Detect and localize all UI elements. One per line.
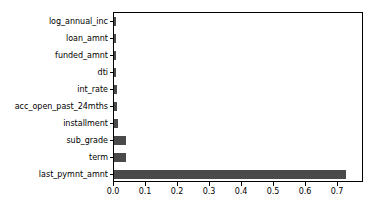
x-tick-mark (145, 182, 146, 186)
x-tick-label-0.2: 0.2 (165, 187, 189, 196)
bar-loan_amnt (114, 34, 362, 43)
bars-layer (114, 13, 362, 181)
y-tick-label-int_rate: int_rate (0, 84, 108, 93)
bar-fill (114, 119, 118, 128)
plot-area (113, 12, 363, 182)
x-tick-mark (337, 182, 338, 186)
figure-canvas: log_annual_incloan_amntfunded_amntdtiint… (0, 0, 383, 208)
y-tick-mark (110, 55, 114, 56)
x-tick-label-0.5: 0.5 (261, 187, 285, 196)
bar-fill (114, 170, 346, 179)
y-tick-label-loan_amnt: loan_amnt (0, 33, 108, 42)
y-tick-mark (110, 21, 114, 22)
y-tick-mark (110, 123, 114, 124)
y-tick-label-sub_grade: sub_grade (0, 135, 108, 144)
x-tick-mark (241, 182, 242, 186)
y-tick-mark (110, 174, 114, 175)
y-tick-label-installment: installment (0, 118, 108, 127)
bar-funded_amnt (114, 51, 362, 60)
x-tick-mark (177, 182, 178, 186)
y-tick-mark (110, 38, 114, 39)
x-tick-mark (209, 182, 210, 186)
y-axis-tick-labels: log_annual_incloan_amntfunded_amntdtiint… (0, 12, 108, 182)
bar-installment (114, 119, 362, 128)
y-tick-mark (110, 106, 114, 107)
bar-int_rate (114, 85, 362, 94)
x-tick-label-0.7: 0.7 (325, 187, 349, 196)
y-tick-label-acc_open_past_24mths: acc_open_past_24mths (0, 101, 108, 110)
bar-sub_grade (114, 136, 362, 145)
y-tick-mark (110, 157, 114, 158)
y-tick-mark (110, 140, 114, 141)
x-tick-mark (113, 182, 114, 186)
y-tick-label-last_pymnt_amnt: last_pymnt_amnt (0, 169, 108, 178)
bar-fill (114, 85, 117, 94)
x-tick-label-0.4: 0.4 (229, 187, 253, 196)
bar-acc_open_past_24mths (114, 102, 362, 111)
y-tick-label-funded_amnt: funded_amnt (0, 50, 108, 59)
bar-log_annual_inc (114, 17, 362, 26)
bar-fill (114, 136, 126, 145)
bar-fill (114, 51, 116, 60)
x-tick-label-0.1: 0.1 (133, 187, 157, 196)
x-tick-mark (305, 182, 306, 186)
y-tick-mark (110, 72, 114, 73)
y-tick-label-term: term (0, 152, 108, 161)
x-tick-mark (273, 182, 274, 186)
x-tick-label-0.6: 0.6 (293, 187, 317, 196)
bar-term (114, 153, 362, 162)
bar-fill (114, 34, 116, 43)
y-tick-mark (110, 89, 114, 90)
bar-dti (114, 68, 362, 77)
y-tick-label-dti: dti (0, 67, 108, 76)
x-tick-label-0.0: 0.0 (101, 187, 125, 196)
x-tick-label-0.3: 0.3 (197, 187, 221, 196)
y-tick-label-log_annual_inc: log_annual_inc (0, 16, 108, 25)
bar-fill (114, 68, 116, 77)
bar-fill (114, 153, 126, 162)
bar-last_pymnt_amnt (114, 170, 362, 179)
bar-fill (114, 17, 116, 26)
bar-fill (114, 102, 117, 111)
